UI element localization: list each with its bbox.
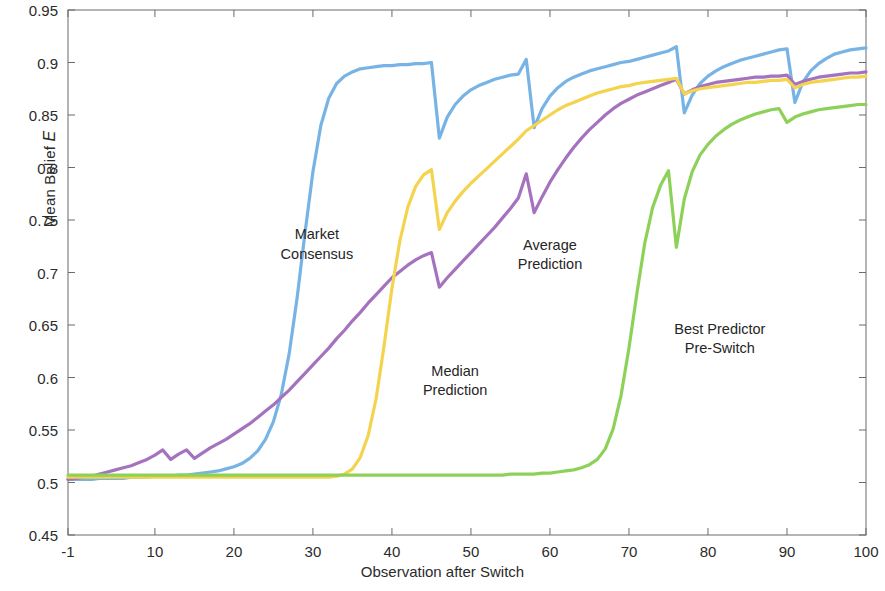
y-tick-label: 0.9: [0, 54, 58, 71]
x-tick-label: 30: [305, 543, 322, 560]
y-tick-label: 0.8: [0, 159, 58, 176]
y-tick-label: 0.75: [0, 212, 58, 229]
x-tick-label: 20: [226, 543, 243, 560]
x-tick-label: 10: [147, 543, 164, 560]
y-axis-label: Mean Belief E: [41, 69, 59, 289]
y-tick-label: 0.95: [0, 2, 58, 19]
y-tick-label: 0.7: [0, 264, 58, 281]
y-tick-label: 0.55: [0, 422, 58, 439]
annotation-median-prediction: MedianPrediction: [423, 362, 487, 401]
y-tick-label: 0.5: [0, 474, 58, 491]
annotation-line-2: Prediction: [423, 381, 487, 401]
plot-frame: [68, 10, 866, 535]
annotation-line-1: Average: [518, 236, 582, 256]
x-tick-label: 80: [700, 543, 717, 560]
x-tick-label: 60: [542, 543, 559, 560]
x-tick-label: 50: [463, 543, 480, 560]
x-tick-label: 40: [384, 543, 401, 560]
y-tick-label: 0.45: [0, 527, 58, 544]
x-tick-label: -1: [61, 543, 74, 560]
axis-box: [68, 10, 866, 535]
annotation-line-2: Prediction: [518, 255, 582, 275]
x-tick-label: 70: [621, 543, 638, 560]
annotation-line-2: Pre-Switch: [674, 339, 765, 359]
plot-area: [0, 0, 885, 591]
annotation-line-1: Best Predictor: [674, 320, 765, 340]
x-tick-label: 100: [853, 543, 878, 560]
annotation-line-1: Market: [281, 225, 354, 245]
x-tick-label: 90: [779, 543, 796, 560]
x-axis-label: Observation after Switch: [0, 563, 885, 580]
annotation-market-consensus: MarketConsensus: [281, 225, 354, 264]
annotation-best-predictor-pre-switch: Best PredictorPre-Switch: [674, 320, 765, 359]
y-axis-label-symbol: E: [41, 131, 58, 142]
chart-figure: Mean Belief E Observation after Switch 0…: [0, 0, 885, 591]
annotation-average-prediction: AveragePrediction: [518, 236, 582, 275]
y-tick-label: 0.85: [0, 107, 58, 124]
annotation-line-2: Consensus: [281, 245, 354, 265]
y-tick-label: 0.6: [0, 369, 58, 386]
y-tick-label: 0.65: [0, 317, 58, 334]
annotation-line-1: Median: [423, 362, 487, 382]
